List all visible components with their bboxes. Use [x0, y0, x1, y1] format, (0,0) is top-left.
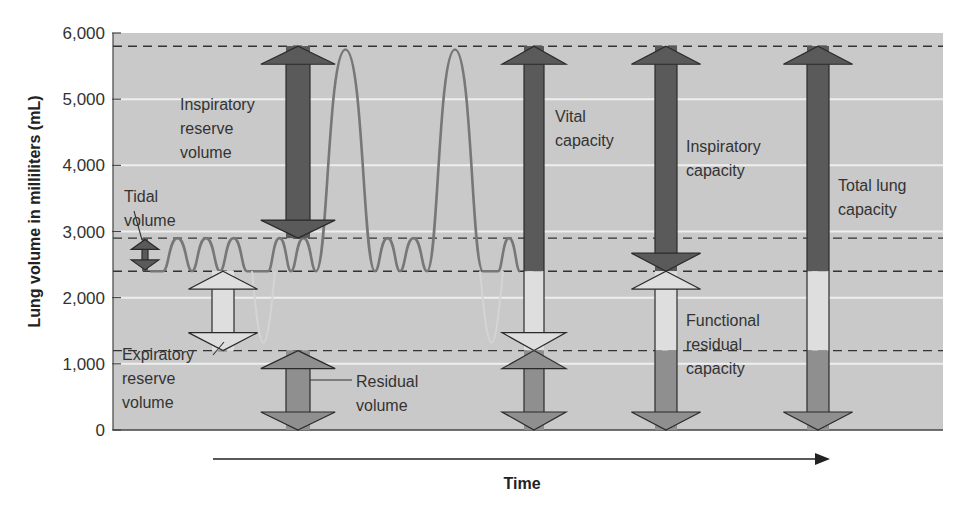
label-line: Tidal [124, 188, 158, 205]
label-line: Inspiratory [686, 138, 761, 155]
x-axis-title: Time [503, 475, 540, 492]
label-line: Functional [686, 312, 760, 329]
arrow-segment [655, 46, 677, 271]
y-tick-label: 2,000 [62, 289, 105, 308]
label-line: reserve [180, 120, 233, 137]
label-line: volume [124, 212, 176, 229]
label-line: capacity [838, 201, 897, 218]
label-line: Vital [555, 108, 586, 125]
arrow-segment [286, 46, 310, 238]
x-axis: Time [213, 453, 830, 492]
y-tick-label: 5,000 [62, 90, 105, 109]
label-line: reserve [122, 370, 175, 387]
label-line: volume [356, 397, 408, 414]
lung-volume-diagram: 01,0002,0003,0004,0005,0006,000Lung volu… [0, 0, 959, 511]
label-line: Residual [356, 373, 418, 390]
y-tick-label: 0 [96, 421, 105, 440]
time-arrowhead-icon [815, 453, 830, 465]
y-tick-label: 4,000 [62, 156, 105, 175]
label-line: residual [686, 336, 742, 353]
label-line: volume [122, 394, 174, 411]
label-line: capacity [686, 162, 745, 179]
arrow-segment [807, 46, 829, 271]
arrow-segment [807, 271, 829, 350]
y-tick-label: 3,000 [62, 223, 105, 242]
label-line: capacity [555, 132, 614, 149]
label-line: volume [180, 144, 232, 161]
y-axis-title: Lung volume in milliliters (mL) [26, 95, 43, 327]
label-line: Total lung [838, 177, 907, 194]
y-tick-label: 1,000 [62, 355, 105, 374]
label-line: capacity [686, 360, 745, 377]
y-tick-label: 6,000 [62, 24, 105, 43]
label-line: Expiratory [122, 346, 194, 363]
label-line: Inspiratory [180, 96, 255, 113]
arrow-segment [524, 46, 544, 271]
